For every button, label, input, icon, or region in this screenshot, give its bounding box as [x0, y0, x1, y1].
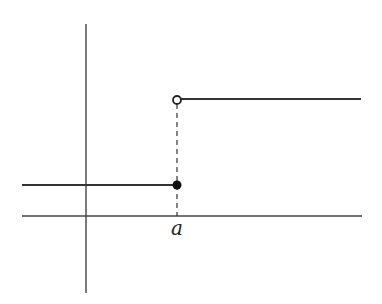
step-function-diagram: a [0, 0, 382, 304]
open-point [173, 96, 181, 104]
closed-point [173, 181, 182, 190]
jump-point-label: a [171, 216, 183, 240]
